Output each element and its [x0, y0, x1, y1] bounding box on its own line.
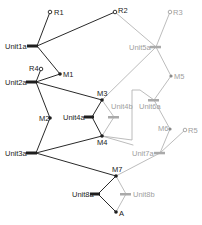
project-network-diagram: R1 R2 R3 R4 R5 M1 M2 M3 M4 M5 M6 M7 A Un… [0, 0, 202, 225]
labels: R1 R2 R3 R4 R5 M1 M2 M3 M4 M5 M6 M7 A Un… [5, 6, 198, 218]
edge-Unit4a-M4 [92, 117, 102, 136]
label-Unit3a: Unit3a [5, 149, 28, 158]
edge-M1-Unit2a [36, 74, 60, 82]
label-R1: R1 [54, 8, 64, 17]
label-Unit7a: Unit7a [132, 149, 155, 158]
label-M2: M2 [39, 114, 49, 123]
unit-bar-Unit5a[interactable] [150, 46, 161, 49]
edge-Unit7a-R5 [160, 130, 185, 153]
edge-M2-Unit3a [36, 118, 50, 153]
label-M5: M5 [174, 72, 184, 81]
milestone-dot-A[interactable] [114, 210, 118, 214]
unit-bar-Unit7a[interactable] [154, 152, 165, 155]
milestone-dot-M3[interactable] [100, 98, 104, 102]
unit-bar-Unit3a[interactable] [26, 152, 37, 155]
label-R3: R3 [173, 8, 183, 17]
resource-circle-R2[interactable] [113, 10, 117, 14]
milestone-dot-M5[interactable] [169, 74, 172, 77]
resource-circle-R3[interactable] [168, 10, 172, 14]
milestone-dot-M1[interactable] [58, 72, 62, 76]
label-M3: M3 [97, 89, 107, 98]
label-Unit6a: Unit6a [139, 102, 162, 111]
edge-Unit3a-M4 [36, 136, 102, 153]
edge-M3-Unit4a [92, 100, 102, 117]
label-R2: R2 [118, 6, 128, 15]
unit-bar-Unit4b[interactable] [108, 116, 119, 119]
edge-M7-Unit8a [98, 176, 116, 194]
edge-Unit8a-A [98, 194, 116, 212]
unit-bar-Unit2a[interactable] [26, 81, 37, 84]
label-Unit4b: Unit4b [111, 102, 133, 111]
edge-M5-Unit6a [154, 76, 171, 100]
edge-R2-Unit5a [115, 12, 156, 47]
edge-Unit4b-M4 [102, 117, 114, 136]
edge-Unit5a-M3 [102, 47, 156, 100]
unit-bar-Unit1a[interactable] [27, 45, 38, 48]
label-R5: R5 [188, 126, 198, 135]
unit-bar-Unit4a[interactable] [84, 116, 94, 119]
edge-Unit2a-M3 [36, 82, 102, 100]
resource-circles [39, 10, 187, 132]
label-Unit8b: Unit8b [133, 190, 155, 199]
milestone-dot-M7[interactable] [114, 174, 118, 178]
edge-Unit5a-R3 [156, 12, 170, 47]
label-M1: M1 [63, 70, 73, 79]
label-Unit1a: Unit1a [5, 42, 28, 51]
resource-circle-R1[interactable] [48, 10, 52, 14]
edge-M7-Unit8b [116, 176, 126, 194]
edge-Unit1a-R2 [37, 12, 115, 46]
label-M7: M7 [112, 165, 122, 174]
label-M4: M4 [97, 138, 107, 147]
edges [36, 12, 185, 212]
edge-Unit5a-M5 [156, 47, 171, 76]
label-A: A [119, 209, 124, 218]
edge-Unit3a-M7 [36, 153, 116, 176]
edge-Unit6a-M4 [102, 90, 154, 140]
unit-bar-Unit8b[interactable] [120, 193, 131, 196]
resource-circle-R5[interactable] [183, 128, 187, 132]
edge-Unit2a-M2 [36, 82, 50, 118]
resource-circle-R4[interactable] [39, 67, 43, 71]
label-M6: M6 [158, 124, 168, 133]
label-R4: R4 [29, 64, 39, 73]
label-Unit2a: Unit2a [5, 78, 28, 87]
label-Unit4a: Unit4a [63, 113, 86, 122]
label-Unit5a: Unit5a [129, 43, 152, 52]
milestone-dot-M6[interactable] [168, 127, 171, 130]
label-Unit8a: Unit8a [72, 190, 95, 199]
